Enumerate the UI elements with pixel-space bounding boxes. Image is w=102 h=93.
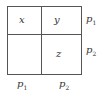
cell-top-right: y <box>54 15 60 25</box>
cell-bottom-right: z <box>56 49 61 59</box>
col-label-1: p1 <box>17 79 27 93</box>
row-label-1: p1 <box>86 14 96 28</box>
cell-top-left: x <box>19 15 25 25</box>
col-label-2: p2 <box>59 79 69 93</box>
horizontal-divider <box>8 34 81 35</box>
row-label-2: p2 <box>86 45 96 59</box>
vertical-divider <box>41 7 42 74</box>
